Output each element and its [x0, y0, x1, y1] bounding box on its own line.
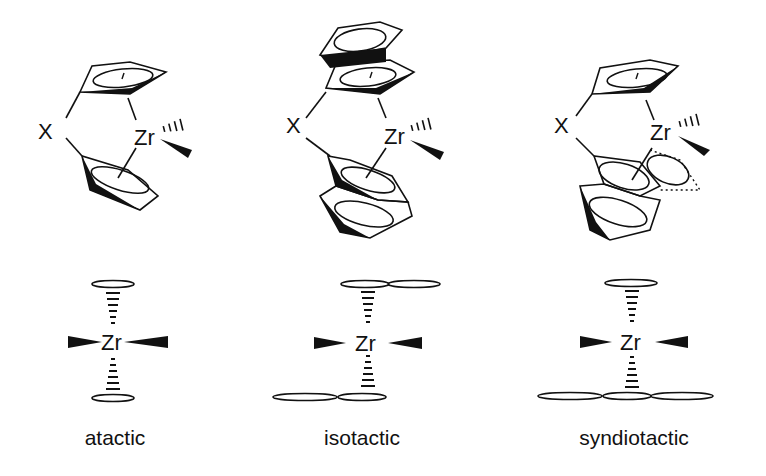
wedge-bond-icon: [678, 136, 710, 156]
isotactic-top-view: Zr: [273, 281, 440, 401]
cp-ring-top: [592, 60, 678, 94]
wedge-bond-icon: [160, 139, 192, 158]
bridge-label: X: [286, 113, 301, 138]
metal-label: Zr: [134, 125, 155, 150]
atactic-structure: X Zr: [38, 62, 192, 210]
bridge-label: X: [554, 113, 569, 138]
syndiotactic-top-view: Zr: [538, 280, 713, 400]
metal-label: Zr: [650, 120, 671, 145]
isotactic-structure: X Zr: [286, 22, 444, 238]
hashed-bond-icon: [163, 119, 183, 135]
fluorenyl-bottom: [580, 149, 700, 240]
caption-syndiotactic: syndiotactic: [579, 426, 689, 450]
wedge-bond-icon: [410, 140, 444, 160]
syndiotactic-structure: X Zr: [554, 60, 710, 240]
metal-label: Zr: [355, 331, 376, 356]
cp-ring-bottom: [82, 156, 158, 210]
cp-ring-top: [80, 62, 166, 94]
diagram-canvas: X Zr X Zr: [0, 0, 766, 476]
indenyl-top: [320, 22, 414, 94]
atactic-top-view: Zr: [68, 281, 168, 402]
caption-isotactic: isotactic: [324, 426, 400, 450]
metal-label: Zr: [620, 330, 641, 355]
metal-label: Zr: [101, 330, 122, 355]
hashed-bond-icon: [679, 114, 699, 130]
bridge-label: X: [38, 119, 53, 144]
caption-atactic: atactic: [85, 426, 146, 450]
hashed-bond-icon: [411, 118, 431, 134]
indenyl-bottom: [320, 156, 412, 238]
metal-label: Zr: [384, 124, 405, 149]
